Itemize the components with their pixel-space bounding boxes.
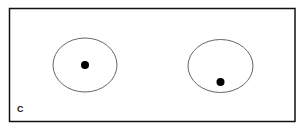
right-dot (217, 78, 225, 86)
frame-border (10, 9, 296, 122)
diagram-canvas: C (0, 0, 307, 135)
left-dot (81, 61, 89, 69)
panel-label: C (17, 104, 24, 114)
